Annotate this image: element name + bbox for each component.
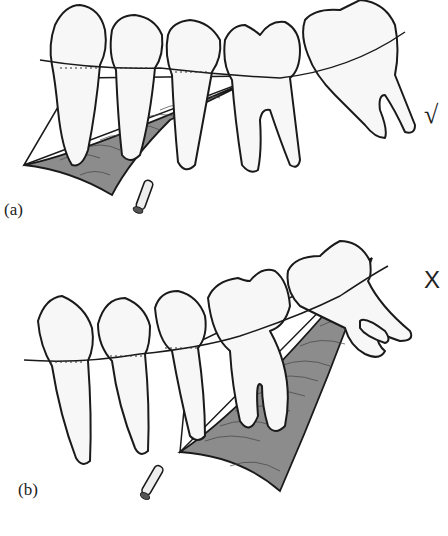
tooth-b-3 xyxy=(155,291,206,440)
panel-a: (a) √ xyxy=(0,0,448,260)
tooth-a-5 xyxy=(303,0,415,138)
tooth-a-1 xyxy=(51,5,106,165)
incorrect-x-mark: X xyxy=(424,266,440,294)
tooth-b-4 xyxy=(208,270,290,431)
teeth-drawing-b xyxy=(0,236,448,536)
panel-label-a: (a) xyxy=(4,200,23,220)
panel-label-b: (b) xyxy=(18,480,38,500)
correct-check-mark: √ xyxy=(424,100,438,130)
x-ray-tube-b xyxy=(139,464,164,501)
teeth-drawing-a xyxy=(0,0,448,260)
tooth-b-1 xyxy=(38,296,93,464)
panel-b: (b) X xyxy=(0,236,448,536)
x-ray-tube-a xyxy=(132,179,154,214)
tooth-a-4 xyxy=(224,22,300,172)
tooth-b-2 xyxy=(98,298,150,454)
